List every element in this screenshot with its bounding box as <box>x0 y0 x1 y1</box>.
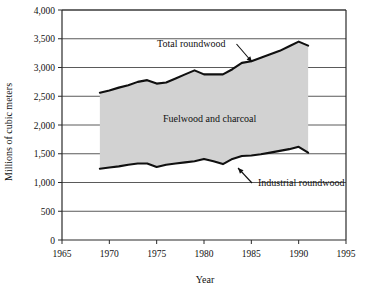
x-tick-label: 1995 <box>337 249 356 259</box>
y-tick-label: 500 <box>41 207 56 217</box>
y-axis-title: Millions of cubic meters <box>3 83 14 181</box>
y-tick-label: 1,000 <box>34 178 56 188</box>
x-tick-label: 1970 <box>100 249 119 259</box>
y-tick-label: 2,500 <box>34 92 56 102</box>
chart-container: 05001,0001,5002,0002,5003,0003,5004,000 … <box>0 0 387 289</box>
y-tick-label: 4,000 <box>34 6 56 16</box>
x-axis-title: Year <box>196 274 215 285</box>
y-tick-label: 0 <box>50 236 55 246</box>
y-tick-label: 1,500 <box>34 149 56 159</box>
y-tick-label: 2,000 <box>34 121 56 131</box>
roundwood-production-chart: 05001,0001,5002,0002,5003,0003,5004,000 … <box>0 0 387 289</box>
x-tick-label: 1975 <box>147 249 166 259</box>
x-tick-label: 1985 <box>242 249 261 259</box>
annotation-label-industrial-roundwood: Industrial roundwood <box>258 177 344 188</box>
annotation-label-fuelwood-and-charcoal: Fuelwood and charcoal <box>163 113 257 124</box>
y-tick-label: 3,000 <box>34 63 56 73</box>
annotation-label-total-roundwood: Total roundwood <box>157 38 225 49</box>
x-tick-label: 1990 <box>289 249 308 259</box>
x-tick-label: 1980 <box>195 249 214 259</box>
x-tick-label: 1965 <box>53 249 72 259</box>
y-tick-label: 3,500 <box>34 34 56 44</box>
